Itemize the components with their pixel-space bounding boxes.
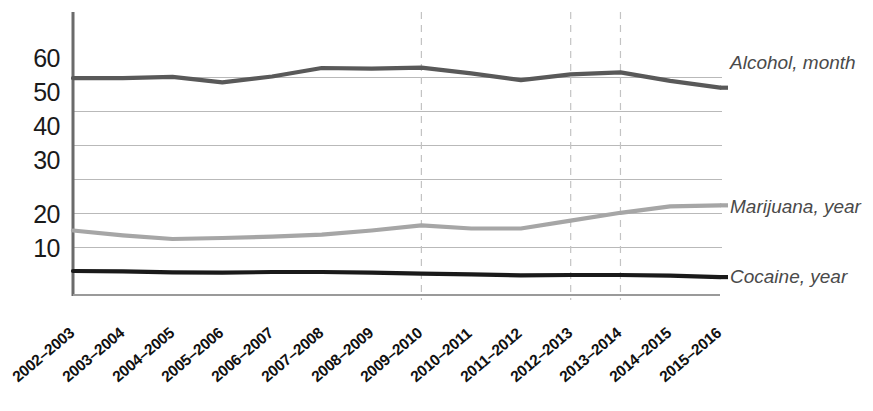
series-line-marijuana [73,205,720,239]
gridlines [73,78,722,248]
vertical-dashed-gridlines [421,12,620,300]
line-chart: 60 50 40 30 20 10 2002–20032003–20042004… [0,0,873,411]
series-line-cocaine [73,271,720,277]
series-label-marijuana: Marijuana, year [730,196,861,218]
series-label-cocaine: Cocaine, year [730,266,847,288]
series-label-alcohol: Alcohol, month [730,52,856,74]
series-lines [73,68,728,278]
